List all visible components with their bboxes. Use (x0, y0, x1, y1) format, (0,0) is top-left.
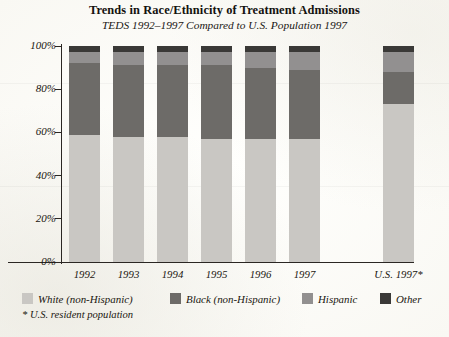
bar-segment-white (69, 135, 100, 262)
y-axis-label: 0% (0, 255, 56, 267)
y-axis-label: 60% (0, 125, 56, 137)
bar-1994 (157, 46, 188, 262)
chart-legend: White (non-Hispanic)Black (non-Hispanic)… (0, 289, 449, 305)
legend-swatch-other (380, 293, 391, 304)
y-axis-tick (55, 132, 62, 133)
bar-segment-hispanic (157, 52, 188, 65)
legend-label: White (non-Hispanic) (38, 293, 133, 305)
bar-segment-black (289, 70, 320, 139)
legend-swatch-white (22, 293, 33, 304)
bar-1995 (201, 46, 232, 262)
bar-segment-black (69, 63, 100, 134)
bar-segment-white (201, 139, 232, 262)
bar-segment-hispanic (69, 52, 100, 63)
y-axis-tick (55, 89, 62, 90)
chart-footnote: * U.S. resident population (22, 309, 133, 320)
bar-segment-hispanic (383, 52, 414, 71)
legend-item-white: White (non-Hispanic) (22, 289, 133, 303)
bar-segment-white (157, 137, 188, 262)
y-axis-label: 20% (0, 212, 56, 224)
bar-segment-black (113, 65, 144, 136)
legend-item-black: Black (non-Hispanic) (170, 289, 280, 303)
y-axis-tick (55, 46, 62, 47)
chart-title: Trends in Race/Ethnicity of Treatment Ad… (0, 3, 449, 18)
legend-item-hispanic: Hispanic (302, 289, 357, 303)
bar-segment-hispanic (289, 52, 320, 69)
bar-segment-hispanic (201, 52, 232, 65)
bar-segment-black (201, 65, 232, 138)
y-axis-label: 100% (0, 39, 56, 51)
bar-u-s-1997- (383, 46, 414, 262)
x-axis-label: U.S. 1997* (359, 268, 439, 280)
y-axis-label: 80% (0, 82, 56, 94)
bar-segment-white (113, 137, 144, 262)
x-axis-line (8, 262, 414, 263)
bar-1992 (69, 46, 100, 262)
legend-label: Black (non-Hispanic) (186, 293, 280, 305)
bar-segment-white (383, 104, 414, 262)
y-axis-tick (55, 175, 62, 176)
y-axis-label: 40% (0, 169, 56, 181)
legend-item-other: Other (380, 289, 421, 303)
bar-segment-black (383, 72, 414, 104)
y-axis-tick (55, 218, 62, 219)
y-axis-tick (55, 262, 62, 263)
bar-segment-white (289, 139, 320, 262)
x-axis-label: 1997 (265, 268, 345, 280)
bar-segment-black (157, 65, 188, 136)
bar-1997 (289, 46, 320, 262)
bar-segment-white (245, 139, 276, 262)
bar-1996 (245, 46, 276, 262)
bar-segment-black (245, 68, 276, 139)
legend-label: Other (396, 293, 421, 305)
legend-swatch-hispanic (302, 293, 313, 304)
chart-subtitle: TEDS 1992–1997 Compared to U.S. Populati… (0, 19, 449, 31)
legend-label: Hispanic (318, 293, 357, 305)
bar-segment-hispanic (113, 52, 144, 65)
legend-swatch-black (170, 293, 181, 304)
bar-1993 (113, 46, 144, 262)
bar-segment-hispanic (245, 52, 276, 67)
